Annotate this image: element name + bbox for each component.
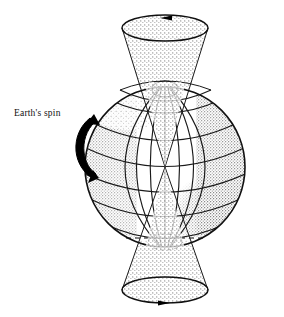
- figure-canvas: Earth's spin: [0, 0, 284, 317]
- earth-precession-diagram: [0, 0, 284, 317]
- earth-spin-label: Earth's spin: [14, 108, 61, 118]
